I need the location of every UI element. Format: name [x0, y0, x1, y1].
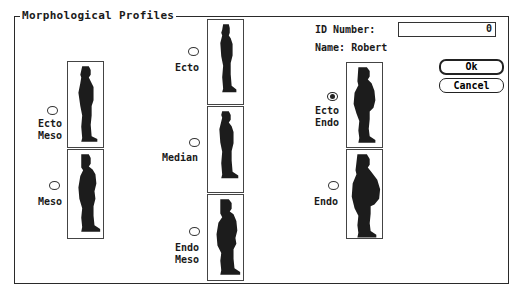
cancel-button[interactable]: Cancel [439, 78, 504, 93]
body-silhouette-icon [208, 20, 243, 104]
label-ecto: Ecto [170, 62, 204, 74]
name-label-text: Name: [315, 42, 345, 53]
label-line: Meso [170, 254, 204, 266]
figure-ecto[interactable] [207, 19, 244, 105]
label-median: Median [156, 152, 204, 164]
figure-ecto-meso[interactable] [67, 61, 104, 148]
figure-endo[interactable] [346, 149, 383, 239]
label-line: Ecto [307, 105, 347, 117]
label-line: Meso [30, 130, 70, 142]
label-ecto-meso: Ecto Meso [30, 118, 70, 142]
body-silhouette-icon [68, 62, 103, 147]
radio-median[interactable] [189, 138, 200, 147]
name-label: Name: Robert [315, 42, 387, 54]
body-silhouette-icon [208, 107, 243, 192]
figure-median[interactable] [207, 106, 244, 193]
label-line: Endo [307, 117, 347, 129]
figure-ecto-endo[interactable] [346, 62, 383, 148]
label-line: Ecto [30, 118, 70, 130]
label-line: Endo [170, 242, 204, 254]
radio-endo-meso[interactable] [189, 227, 200, 236]
id-number-input[interactable]: 0 [398, 22, 496, 37]
body-silhouette-icon [208, 195, 243, 280]
ok-button[interactable]: Ok [439, 59, 504, 75]
radio-ecto-endo[interactable] [327, 92, 338, 101]
body-silhouette-icon [68, 150, 103, 238]
body-silhouette-icon [347, 63, 382, 147]
radio-meso[interactable] [49, 181, 60, 190]
radio-endo[interactable] [328, 181, 339, 190]
figure-endo-meso[interactable] [207, 194, 244, 281]
label-ecto-endo: Ecto Endo [307, 105, 347, 129]
groupbox-title: Morphological Profiles [20, 9, 176, 22]
label-endo-meso: Endo Meso [170, 242, 204, 266]
id-number-label: ID Number: [315, 24, 375, 36]
radio-ecto[interactable] [188, 47, 199, 56]
label-meso: Meso [30, 196, 70, 208]
name-value: Robert [351, 42, 387, 53]
body-silhouette-icon [347, 150, 382, 238]
radio-ecto-meso[interactable] [47, 106, 58, 115]
figure-meso[interactable] [67, 149, 104, 239]
label-endo: Endo [308, 196, 344, 208]
